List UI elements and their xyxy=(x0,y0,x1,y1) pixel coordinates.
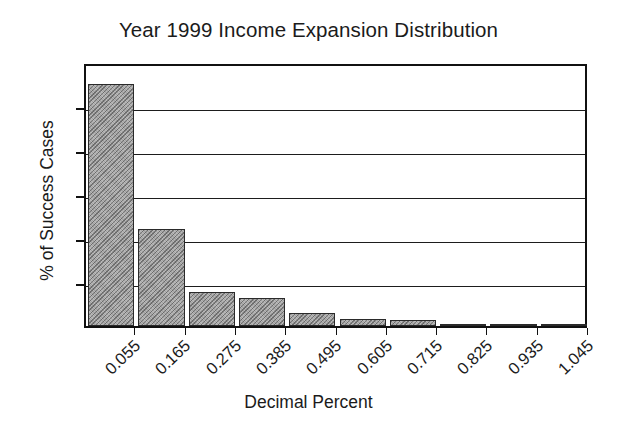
y-tick-mark xyxy=(76,284,85,286)
y-tick-mark xyxy=(76,196,85,198)
chart-title: Year 1999 Income Expansion Distribution xyxy=(0,18,617,42)
x-tick-mark xyxy=(436,328,437,335)
x-tick-mark xyxy=(336,328,337,335)
bar xyxy=(88,84,134,326)
bar xyxy=(440,324,486,326)
x-tick-mark xyxy=(235,328,236,335)
x-tick-mark xyxy=(486,328,487,335)
bar xyxy=(289,313,335,326)
x-tick-mark xyxy=(285,328,286,335)
bar xyxy=(541,324,587,326)
bar xyxy=(239,298,285,326)
bars-layer xyxy=(86,66,585,326)
plot-area xyxy=(84,64,587,328)
x-tick-mark xyxy=(185,328,186,335)
x-tick-mark xyxy=(386,328,387,335)
y-tick-mark xyxy=(76,152,85,154)
x-axis-title: Decimal Percent xyxy=(0,392,617,413)
bar xyxy=(138,229,184,326)
x-tick-mark xyxy=(587,328,588,335)
bar xyxy=(490,324,536,326)
bar xyxy=(340,319,386,326)
chart-figure: Year 1999 Income Expansion Distribution … xyxy=(0,0,617,430)
y-tick-mark xyxy=(76,240,85,242)
bar xyxy=(189,292,235,326)
bar xyxy=(390,320,436,326)
y-tick-mark xyxy=(76,108,85,110)
x-tick-mark xyxy=(134,328,135,335)
x-tick-mark xyxy=(537,328,538,335)
y-axis-title: % of Success Cases xyxy=(37,76,58,326)
